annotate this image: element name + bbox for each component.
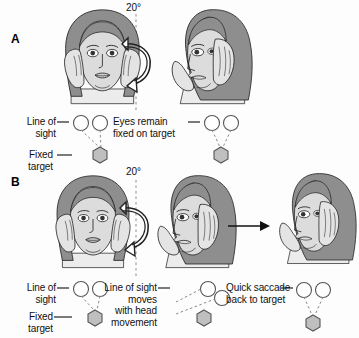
head-after-saccade-b — [280, 174, 357, 264]
target-a-right — [214, 147, 228, 163]
label-line-of-sight-moves-b: Line of sight moves with head movement — [84, 282, 157, 328]
label-eyes-remain-fixed-a: Eyes remain fixed on target — [113, 116, 195, 139]
head-frontal-a — [65, 10, 141, 104]
panel-a-graphics — [57, 10, 252, 163]
rotation-angle-label-b: 20° — [126, 166, 141, 177]
target-b-middle — [197, 310, 211, 326]
panel-letter-b: B — [11, 175, 20, 189]
gaze-group-a-right — [188, 116, 239, 164]
panel-letter-a: A — [11, 32, 20, 46]
gaze-group-a-left — [57, 116, 108, 164]
label-fixed-target-a: Fixed target — [0, 149, 53, 172]
label-line-of-sight-a: Line of sight — [0, 116, 56, 139]
rotation-angle-label-a: 20° — [126, 2, 141, 13]
head-rotated-a — [172, 10, 252, 104]
target-a-left — [93, 147, 107, 163]
head-frontal-b — [56, 176, 130, 268]
eye-left-b-middle — [201, 282, 216, 297]
label-line-of-sight-b: Line of sight — [0, 282, 56, 305]
vor-figure: A 20° Line of sight Fixed target Eyes re… — [0, 0, 359, 338]
gaze-group-b-middle — [158, 282, 230, 327]
target-b-right — [306, 315, 320, 331]
head-rotated-b — [158, 176, 236, 268]
label-fixed-target-b: Fixed target — [0, 311, 53, 334]
label-quick-saccade-b: Quick saccade back to target — [226, 282, 312, 305]
